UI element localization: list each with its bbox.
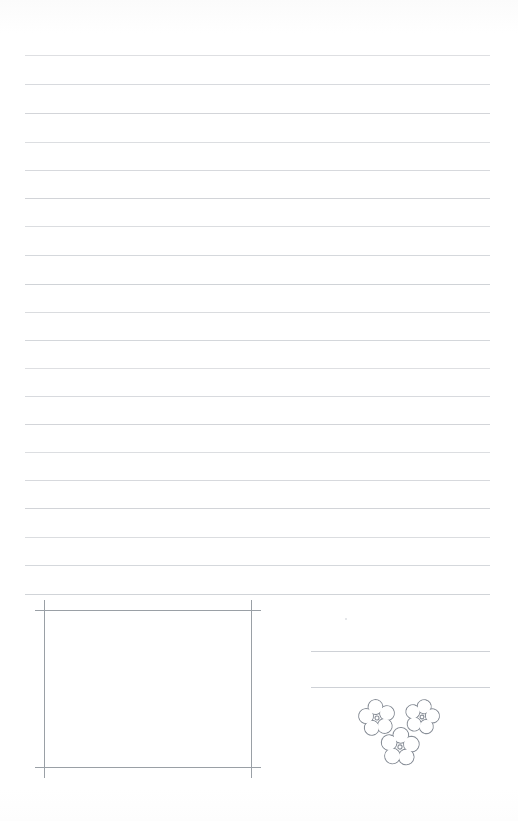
- ruled-line: [25, 480, 490, 481]
- ruled-line: [25, 84, 490, 85]
- ruled-line: [25, 284, 490, 285]
- ruled-line: [25, 452, 490, 453]
- ruled-line: [25, 368, 490, 369]
- answer-line: [311, 651, 490, 652]
- ruled-line: [25, 55, 490, 56]
- ruled-line: [25, 113, 490, 114]
- section-divider-line: [25, 594, 490, 595]
- drawing-box-right-edge: [251, 600, 252, 778]
- answer-line: [311, 687, 490, 688]
- ruled-line: [25, 396, 490, 397]
- ink-speck: [345, 618, 347, 620]
- ruled-line: [25, 170, 490, 171]
- worksheet-page: [0, 0, 518, 821]
- drawing-box-left-edge: [44, 600, 45, 778]
- ruled-line: [25, 226, 490, 227]
- ruled-line: [25, 537, 490, 538]
- ruled-line: [25, 565, 490, 566]
- flower-bottom-icon: [378, 725, 422, 769]
- ruled-line: [25, 142, 490, 143]
- drawing-box-bottom-edge: [35, 767, 261, 768]
- ruled-line: [25, 255, 490, 256]
- ruled-line: [25, 424, 490, 425]
- drawing-box-top-edge: [35, 610, 261, 611]
- ruled-line: [25, 198, 490, 199]
- ruled-line: [25, 312, 490, 313]
- ruled-line: [25, 508, 490, 509]
- ruled-line: [25, 340, 490, 341]
